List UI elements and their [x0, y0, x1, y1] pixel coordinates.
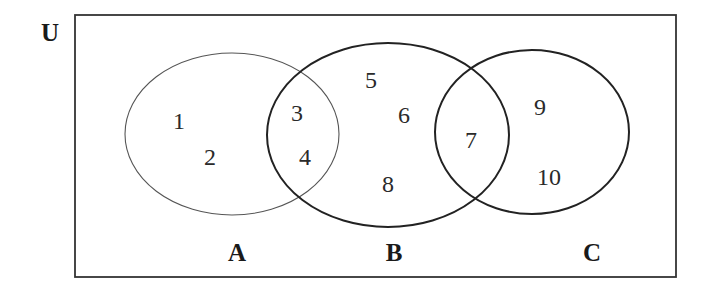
element-2: 2 — [204, 144, 216, 170]
set-a-ellipse — [125, 53, 339, 215]
element-3: 3 — [291, 100, 303, 126]
venn-diagram: U ABC 12345678910 — [0, 0, 707, 294]
element-8: 8 — [382, 171, 394, 197]
set-labels-layer: ABC — [228, 239, 601, 266]
element-4: 4 — [299, 144, 311, 170]
element-1: 1 — [173, 108, 185, 134]
set-b-label: B — [386, 239, 403, 266]
element-7: 7 — [465, 127, 477, 153]
element-10: 10 — [537, 164, 561, 190]
element-9: 9 — [534, 94, 546, 120]
universe-label: U — [41, 19, 59, 46]
elements-layer: 12345678910 — [173, 67, 561, 197]
set-a-label: A — [228, 239, 246, 266]
element-6: 6 — [398, 102, 410, 128]
sets-layer — [125, 43, 629, 227]
element-5: 5 — [365, 67, 377, 93]
set-c-label: C — [583, 239, 601, 266]
